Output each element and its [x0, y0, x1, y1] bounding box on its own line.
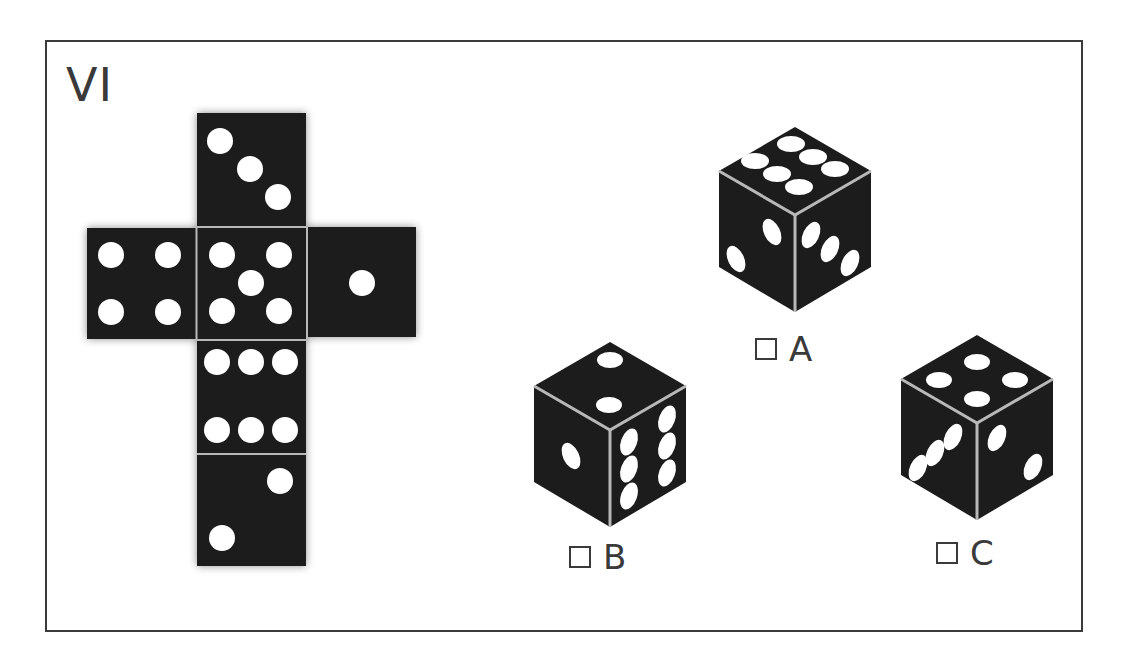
option-a[interactable]: A: [755, 332, 812, 366]
net-face-bottom-two: [197, 455, 306, 566]
option-a-checkbox[interactable]: [755, 338, 777, 360]
die-option-b[interactable]: [534, 342, 686, 527]
option-c[interactable]: C: [936, 536, 994, 570]
die-option-c[interactable]: [901, 335, 1053, 520]
puzzle-canvas: VI: [0, 0, 1123, 662]
option-a-label: A: [789, 332, 812, 366]
option-b-checkbox[interactable]: [569, 546, 591, 568]
option-b[interactable]: B: [569, 540, 626, 574]
option-b-label: B: [603, 540, 626, 574]
die-option-a[interactable]: [719, 127, 871, 312]
net-face-center-five: [197, 228, 306, 339]
net-face-left-four: [87, 228, 196, 339]
net-face-top-three: [197, 113, 306, 226]
net-face-below-six: [197, 341, 306, 453]
dice-net: [87, 113, 416, 566]
net-face-right-one: [308, 227, 416, 337]
option-c-label: C: [970, 536, 994, 570]
option-c-checkbox[interactable]: [936, 542, 958, 564]
